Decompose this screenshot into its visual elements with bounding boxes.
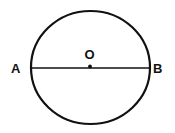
circle-diagram: A B O xyxy=(0,0,175,133)
label-b: B xyxy=(153,61,162,76)
label-a: A xyxy=(11,61,21,76)
center-point xyxy=(88,65,92,69)
label-o: O xyxy=(85,47,95,62)
